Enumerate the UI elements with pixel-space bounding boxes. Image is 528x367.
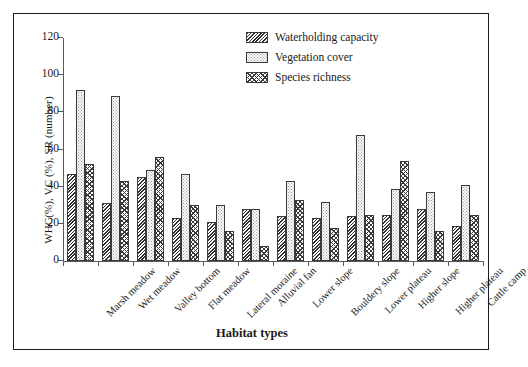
y-axis-tick: 80 bbox=[63, 111, 64, 112]
bar bbox=[146, 170, 155, 261]
y-axis-tick-label: 40 bbox=[48, 178, 60, 193]
x-axis-tick-mark bbox=[63, 261, 64, 266]
bar-group bbox=[312, 38, 339, 261]
bar-group bbox=[67, 38, 94, 261]
plot-area: 020406080100120 Marsh meadowWet meadowVa… bbox=[63, 38, 483, 261]
bar bbox=[242, 209, 251, 261]
bar bbox=[330, 228, 339, 261]
y-axis-tick-label: 0 bbox=[53, 252, 59, 267]
bar-group bbox=[172, 38, 199, 261]
y-axis-tick-label: 120 bbox=[42, 29, 59, 44]
bar-group bbox=[102, 38, 129, 261]
bar bbox=[172, 218, 181, 261]
y-axis-tick: 40 bbox=[63, 186, 64, 187]
bar bbox=[321, 202, 330, 261]
bar bbox=[102, 203, 111, 261]
x-axis-tick-mark bbox=[273, 261, 274, 266]
y-axis-tick-label: 60 bbox=[48, 141, 60, 156]
bar bbox=[260, 246, 269, 261]
y-axis-tick: 100 bbox=[63, 74, 64, 75]
bar bbox=[120, 181, 129, 261]
bar bbox=[190, 205, 199, 261]
x-axis-title: Habitat types bbox=[14, 326, 490, 341]
bar-group bbox=[382, 38, 409, 261]
x-axis-tick-mark bbox=[343, 261, 344, 266]
bar bbox=[85, 164, 94, 261]
bar bbox=[277, 216, 286, 261]
bar bbox=[417, 209, 426, 261]
x-axis-tick-mark bbox=[133, 261, 134, 266]
bar bbox=[67, 174, 76, 261]
y-axis-line bbox=[63, 38, 64, 261]
bar bbox=[76, 90, 85, 261]
bar bbox=[251, 209, 260, 261]
y-axis-tick: 20 bbox=[63, 223, 64, 224]
bar bbox=[286, 181, 295, 261]
bar bbox=[461, 185, 470, 261]
x-axis-tick-mark bbox=[98, 261, 99, 266]
x-axis-tick-mark bbox=[413, 261, 414, 266]
bar-group bbox=[207, 38, 234, 261]
bar bbox=[347, 216, 356, 261]
y-axis-tick: 120 bbox=[63, 37, 64, 38]
bar-group bbox=[242, 38, 269, 261]
y-axis-tick-label: 80 bbox=[48, 103, 60, 118]
bar bbox=[312, 218, 321, 261]
x-axis-tick-mark bbox=[168, 261, 169, 266]
bar bbox=[295, 200, 304, 261]
bar bbox=[155, 157, 164, 261]
x-axis-tick-mark bbox=[203, 261, 204, 266]
bar-group bbox=[452, 38, 479, 261]
x-axis-tick-mark bbox=[483, 261, 484, 266]
y-axis-tick-label: 100 bbox=[42, 66, 59, 81]
bar-group bbox=[137, 38, 164, 261]
bar bbox=[391, 189, 400, 261]
bar bbox=[111, 96, 120, 261]
bar bbox=[452, 226, 461, 261]
bar bbox=[356, 135, 365, 261]
y-axis-tick-label: 20 bbox=[48, 215, 60, 230]
x-axis-tick-mark bbox=[238, 261, 239, 266]
bar bbox=[426, 192, 435, 261]
bar bbox=[181, 174, 190, 261]
bar-group bbox=[347, 38, 374, 261]
bar bbox=[400, 161, 409, 261]
y-axis-tick: 60 bbox=[63, 149, 64, 150]
bar bbox=[207, 222, 216, 261]
bar bbox=[382, 215, 391, 261]
bar bbox=[435, 231, 444, 261]
bar bbox=[225, 231, 234, 261]
bar bbox=[470, 215, 479, 261]
bar bbox=[137, 177, 146, 261]
bar-group bbox=[277, 38, 304, 261]
y-axis-title: WHC(%), VC (%), SR (number) bbox=[42, 70, 54, 270]
x-axis-tick-mark bbox=[378, 261, 379, 266]
bar bbox=[216, 205, 225, 261]
x-axis-tick-mark bbox=[448, 261, 449, 266]
bar-group bbox=[417, 38, 444, 261]
bar bbox=[365, 215, 374, 261]
figure-border-frame: WHC(%), VC (%), SR (number) Habitat type… bbox=[13, 13, 489, 350]
